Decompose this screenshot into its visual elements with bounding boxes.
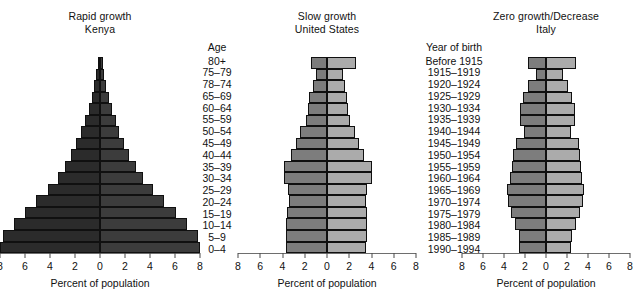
axis-title-kenya: Percent of population	[0, 277, 200, 289]
pyramid-row	[0, 126, 200, 138]
x-axis-kenya: Percent of population 864202468	[0, 253, 200, 299]
axis-tick-label: 4	[501, 260, 507, 272]
pyramid-row	[0, 230, 200, 242]
pyramid-row-left	[238, 57, 327, 69]
chart-title-line2: United States	[238, 23, 416, 36]
bar-female	[327, 57, 356, 69]
axis-tick	[304, 253, 305, 258]
bar-female	[327, 242, 366, 254]
axis-tick-label: 2	[522, 260, 528, 272]
bar-male	[308, 103, 327, 115]
age-label: 30–34	[190, 173, 244, 185]
pyramid-row	[0, 57, 200, 69]
pyramid-row	[0, 172, 200, 184]
pyramid-row-right	[327, 207, 416, 219]
pyramid-row-right	[546, 138, 630, 150]
bar-female	[546, 138, 579, 150]
axis-tick-label: 4	[585, 260, 591, 272]
bar-female	[327, 138, 359, 150]
pyramid-row	[0, 69, 200, 81]
pyramid-row-left	[238, 161, 327, 173]
pyramid-row-left	[462, 57, 546, 69]
pyramid-row	[238, 69, 416, 81]
bar-female	[100, 69, 104, 81]
axis-tick-label: 6	[606, 260, 612, 272]
bar-male	[309, 92, 327, 104]
axis-tick	[327, 253, 328, 258]
pyramid-row-left	[0, 218, 100, 230]
pyramid-row-right	[327, 149, 416, 161]
bar-male	[520, 115, 546, 127]
axis-tick-label: 4	[369, 260, 375, 272]
axis-tick	[462, 253, 463, 258]
pyramid-row-left	[462, 218, 546, 230]
pyramid-row	[0, 80, 200, 92]
bar-female	[327, 195, 366, 207]
pyramid-row-right	[327, 126, 416, 138]
pyramid-row-right	[546, 103, 630, 115]
chart-panel-united-states: Slow growth United States Percent of pop…	[238, 0, 416, 306]
pyramid-row-left	[238, 103, 327, 115]
bar-male	[316, 69, 327, 81]
bar-female	[546, 80, 568, 92]
pyramid-row-left	[0, 161, 100, 173]
axis-tick	[260, 253, 261, 258]
bar-female	[327, 172, 372, 184]
age-label: 0–4	[190, 243, 244, 255]
bar-male	[523, 92, 546, 104]
bar-male	[288, 184, 327, 196]
pyramid-row-left	[238, 184, 327, 196]
bar-male	[519, 230, 546, 242]
pyramid-row-right	[100, 103, 200, 115]
bar-male	[528, 80, 546, 92]
axis-tick-label: 2	[302, 260, 308, 272]
bar-male	[65, 161, 100, 173]
pyramid-row-right	[100, 172, 200, 184]
bar-female	[100, 184, 153, 196]
pyramid-row-left	[0, 242, 100, 254]
pyramid-row	[238, 80, 416, 92]
bar-female	[327, 103, 348, 115]
plot-area-italy	[462, 57, 630, 253]
bar-female	[327, 80, 345, 92]
pyramid-row	[238, 115, 416, 127]
pyramid-row	[0, 242, 200, 254]
bar-male	[519, 242, 546, 254]
pyramid-row-right	[546, 57, 630, 69]
pyramid-row	[462, 172, 630, 184]
pyramid-row	[462, 57, 630, 69]
bar-male	[516, 138, 546, 150]
pyramid-row-left	[462, 172, 546, 184]
bar-female	[100, 126, 119, 138]
axis-tick-label: 2	[122, 260, 128, 272]
pyramid-row-right	[100, 207, 200, 219]
pyramid-row	[462, 149, 630, 161]
pyramid-row-left	[0, 92, 100, 104]
chart-panel-italy: Zero growth/Decrease Italy Percent of po…	[462, 0, 630, 306]
chart-panel-kenya: Rapid growth Kenya Percent of population…	[0, 0, 200, 306]
axis-tick	[525, 253, 526, 258]
pyramid-row-left	[462, 126, 546, 138]
pyramid-row-right	[100, 92, 200, 104]
bar-male	[287, 207, 327, 219]
chart-title-line2: Italy	[462, 23, 630, 36]
pyramid-row-right	[546, 207, 630, 219]
pyramid-row-left	[462, 80, 546, 92]
bar-male	[508, 195, 546, 207]
chart-title-italy: Zero growth/Decrease Italy	[462, 10, 630, 36]
pyramid-row-left	[0, 195, 100, 207]
pyramid-row	[238, 184, 416, 196]
axis-tick	[75, 253, 76, 258]
pyramid-row-right	[546, 80, 630, 92]
pyramid-row-right	[327, 161, 416, 173]
age-label: 40–44	[190, 149, 244, 161]
axis-tick	[483, 253, 484, 258]
pyramid-row	[238, 57, 416, 69]
age-column-header: Age	[190, 41, 244, 53]
bar-female	[546, 69, 563, 81]
axis-tick-label: 4	[280, 260, 286, 272]
axis-tick	[630, 253, 631, 258]
pyramid-row-left	[238, 149, 327, 161]
axis-tick-label: 2	[346, 260, 352, 272]
